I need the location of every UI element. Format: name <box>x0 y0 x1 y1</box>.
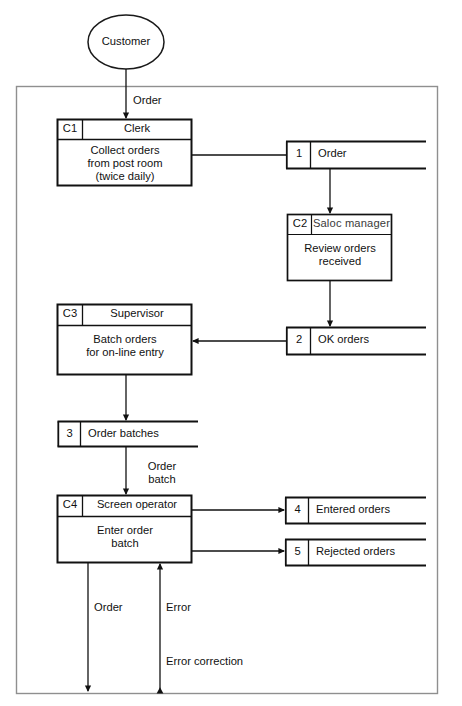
flow-label-error: Error <box>166 601 191 614</box>
data-store-3-id: 3 <box>58 427 81 440</box>
data-store-4-id: 4 <box>286 503 309 516</box>
diagram-canvas: Customer Order C1 Clerk Collect orders f… <box>0 0 462 706</box>
process-c4-body: Enter order batch <box>58 524 192 550</box>
data-store-2-label: OK orders <box>318 333 369 346</box>
data-store-5-id: 5 <box>286 545 309 558</box>
data-store-5-label: Rejected orders <box>316 545 395 558</box>
data-store-4-label: Entered orders <box>316 503 390 516</box>
process-c3-body: Batch orders for on-line entry <box>58 333 192 359</box>
data-store-1-label: Order <box>318 147 347 160</box>
process-c4-role: Screen operator <box>83 498 191 511</box>
flow-error-correction-into-system <box>157 564 164 694</box>
data-store-1-id: 1 <box>287 147 311 160</box>
process-c3-id: C3 <box>58 307 82 320</box>
flow-label-error-correction: Error correction <box>166 655 243 668</box>
data-store-2-id: 2 <box>287 333 311 346</box>
customer-entity-label: Customer <box>86 35 166 48</box>
process-c4-id: C4 <box>58 498 82 511</box>
flow-label-order-batch: Order batch <box>131 460 193 486</box>
process-c1-role: Clerk <box>83 122 191 135</box>
process-c2-role: Saloc manager <box>312 217 391 230</box>
process-c3-role: Supervisor <box>83 307 191 320</box>
process-c2-body: Review orders received <box>288 242 392 268</box>
process-c2-id: C2 <box>288 217 312 230</box>
flow-label-order-in: Order <box>133 94 162 107</box>
process-c1-body: Collect orders from post room (twice dai… <box>58 144 192 184</box>
data-store-3-label: Order batches <box>88 427 159 440</box>
process-c1-id: C1 <box>58 122 82 135</box>
flow-label-order-out: Order <box>94 601 123 614</box>
